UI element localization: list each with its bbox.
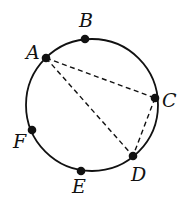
- label-B: B: [78, 9, 93, 31]
- segment-CD: [133, 98, 155, 156]
- point-A: [42, 54, 51, 63]
- segment-AD: [46, 58, 133, 156]
- label-F: F: [12, 130, 27, 152]
- label-A: A: [24, 41, 40, 63]
- segment-AC: [46, 58, 155, 98]
- point-labels: ABCDEF: [12, 9, 177, 197]
- circle-diagram: ABCDEF: [0, 0, 183, 197]
- point-F: [28, 126, 37, 135]
- point-D: [129, 152, 138, 161]
- point-B: [81, 35, 90, 44]
- point-C: [151, 94, 160, 103]
- dashed-chords: [46, 58, 155, 156]
- point-E: [77, 167, 86, 176]
- label-C: C: [162, 89, 177, 111]
- label-E: E: [71, 175, 86, 197]
- label-D: D: [130, 163, 146, 185]
